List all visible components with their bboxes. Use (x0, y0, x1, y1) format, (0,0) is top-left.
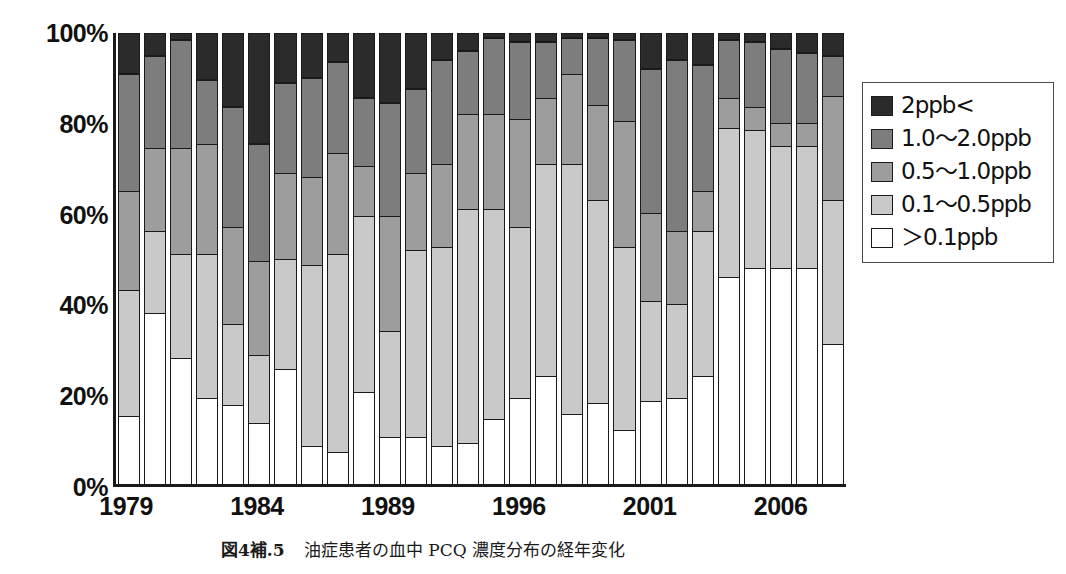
bar-segment (405, 33, 427, 89)
y-tick-label: 100% (46, 21, 108, 46)
chart-figure: 0%20%40%60%80%100% 197919841989199620012… (0, 0, 1066, 574)
bar-1997 (535, 33, 557, 484)
bar-segment (353, 166, 375, 216)
x-tick-label: 1989 (361, 492, 415, 521)
x-axis: 197919841989199620012006 (113, 492, 846, 528)
bar-segment (666, 231, 688, 303)
bar-1982 (196, 33, 218, 484)
bar-2008 (822, 33, 844, 484)
bar-1981 (170, 33, 192, 484)
bar-segment (692, 376, 714, 484)
bar-1993 (483, 33, 505, 484)
x-tick-label: 1979 (99, 492, 153, 521)
bar-segment (379, 103, 401, 216)
bar-segment (770, 146, 792, 268)
bar-segment (483, 209, 505, 419)
bar-segment (744, 42, 766, 107)
bar-segment (509, 33, 531, 42)
bar-segment (222, 107, 244, 227)
bar-segment (118, 33, 140, 74)
bar-segment (561, 164, 583, 414)
figure-caption: 図4補.5 油症患者の血中 PCQ 濃度分布の経年変化 (0, 536, 846, 561)
legend-swatch-icon (871, 195, 893, 215)
legend-label: 0.5〜1.0ppb (901, 160, 1031, 183)
bar-1990 (405, 33, 427, 484)
bar-segment (822, 200, 844, 344)
bar-1986 (301, 33, 323, 484)
bar-segment (640, 301, 662, 400)
bar-series-group (116, 33, 846, 484)
bar-segment (144, 313, 166, 484)
legend: 2ppb<1.0〜2.0ppb0.5〜1.0ppb0.1〜0.5ppb＞0.1p… (862, 82, 1054, 263)
bar-1999 (587, 33, 609, 484)
x-tick-label: 1996 (492, 492, 546, 521)
legend-swatch-icon (871, 129, 893, 149)
figure-number: 図4補.5 (221, 540, 285, 560)
bar-segment (327, 33, 349, 62)
legend-item-gt2: 2ppb< (871, 89, 1045, 122)
bar-2000 (613, 33, 635, 484)
bar-segment (561, 74, 583, 164)
bar-segment (353, 392, 375, 484)
x-tick-label: 2001 (623, 492, 677, 521)
legend-label: 2ppb< (901, 94, 974, 117)
bar-segment (353, 98, 375, 166)
bar-segment (301, 446, 323, 484)
bar-2001 (640, 33, 662, 484)
bar-segment (431, 33, 453, 60)
bar-segment (666, 60, 688, 231)
legend-item-r05_1: 0.5〜1.0ppb (871, 155, 1045, 188)
bar-segment (640, 401, 662, 484)
bar-segment (535, 376, 557, 484)
legend-swatch-icon (871, 228, 893, 248)
y-tick-label: 20% (59, 384, 108, 409)
bar-segment (613, 430, 635, 484)
bar-segment (457, 443, 479, 484)
bar-segment (144, 33, 166, 56)
bar-segment (405, 173, 427, 250)
bar-1987 (327, 33, 349, 484)
bar-segment (405, 89, 427, 172)
bar-segment (613, 33, 635, 40)
bar-segment (718, 33, 740, 40)
bar-segment (222, 227, 244, 324)
bar-segment (274, 259, 296, 369)
bar-segment (587, 105, 609, 200)
y-tick-label: 60% (59, 203, 108, 228)
bar-segment (666, 33, 688, 60)
bar-segment (144, 148, 166, 231)
bar-segment (170, 40, 192, 148)
bar-segment (509, 42, 531, 119)
bar-segment (170, 148, 192, 254)
bar-segment (379, 33, 401, 103)
bar-segment (405, 437, 427, 484)
bar-segment (248, 423, 270, 484)
x-tick-label: 2006 (754, 492, 808, 521)
bar-segment (640, 69, 662, 213)
bar-1980 (144, 33, 166, 484)
bar-segment (118, 290, 140, 416)
bar-segment (196, 80, 218, 143)
bar-segment (640, 33, 662, 69)
bar-segment (274, 173, 296, 259)
bar-2004 (718, 33, 740, 484)
bar-2002 (666, 33, 688, 484)
bar-segment (405, 250, 427, 437)
bar-1984 (248, 33, 270, 484)
bar-segment (509, 119, 531, 227)
bar-segment (457, 114, 479, 209)
bar-segment (222, 324, 244, 405)
x-tick-label: 1984 (230, 492, 284, 521)
bar-segment (274, 369, 296, 484)
bar-segment (744, 268, 766, 484)
bar-segment (431, 446, 453, 484)
bar-segment (431, 247, 453, 445)
legend-item-r1_2: 1.0〜2.0ppb (871, 122, 1045, 155)
bar-1991 (431, 33, 453, 484)
y-tick-label: 40% (59, 293, 108, 318)
bar-segment (301, 78, 323, 177)
bar-segment (770, 268, 792, 484)
legend-label: 0.1〜0.5ppb (901, 193, 1031, 216)
bar-segment (796, 123, 818, 146)
bar-segment (379, 331, 401, 437)
